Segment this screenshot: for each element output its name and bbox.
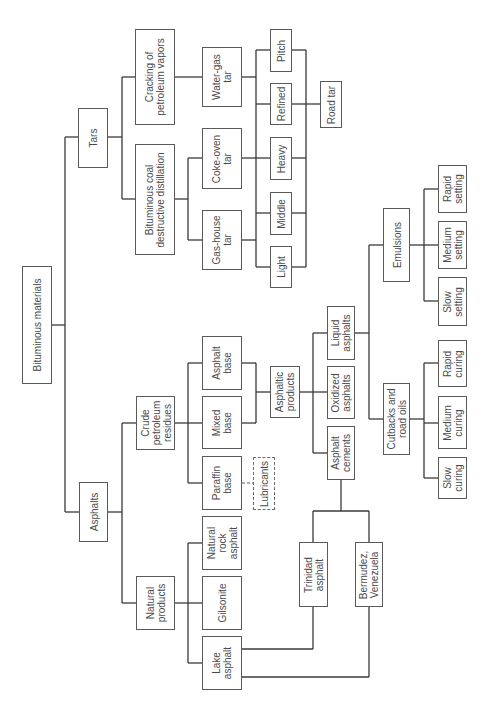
- node-gas-house-tar: Gas-house tar: [202, 210, 242, 270]
- node-asphalt-cements: Asphalt cements: [327, 426, 355, 480]
- node-cutbacks-road-oils: Cutbacks and road oils: [383, 383, 410, 455]
- node-crude-petroleum-residues: Crude petroleum residues: [136, 396, 175, 450]
- node-rapid-setting: Rapid setting: [438, 165, 467, 213]
- node-mixed-base: Mixed base: [202, 396, 242, 449]
- node-cracking-petroleum-vapors: Cracking of petroleum vapors: [135, 29, 175, 125]
- node-tars: Tars: [78, 108, 108, 168]
- node-asphaltic-products: Asphaltic products: [270, 366, 300, 418]
- node-rapid-curing: Rapid curing: [438, 340, 467, 387]
- node-refined: Refined: [270, 83, 292, 125]
- node-bermudez-venezuela: Bermudez, Venezuela: [355, 542, 383, 607]
- node-natural-rock-asphalt: Natural rock asphalt: [202, 516, 242, 570]
- node-gilsonite: Gilsonite: [202, 576, 242, 630]
- bituminous-materials-diagram: Bituminous materials Tars Asphalts Crack…: [0, 0, 482, 716]
- node-trinidad-asphalt: Trinidad asphalt: [299, 542, 328, 607]
- node-emulsions: Emulsions: [383, 208, 410, 282]
- node-asphalts: Asphalts: [79, 482, 108, 542]
- node-oxidized-asphalts: Oxidized asphalts: [327, 366, 355, 419]
- node-lake-asphalt: Lake asphalt: [202, 636, 242, 690]
- node-pitch: Pitch: [270, 29, 292, 72]
- node-middle: Middle: [270, 192, 292, 235]
- node-heavy: Heavy: [270, 137, 292, 180]
- node-water-gas-tar: Water-gas tar: [202, 47, 242, 107]
- node-bituminous-materials: Bituminous materials: [22, 266, 52, 384]
- node-medium-setting: Medium setting: [438, 221, 467, 269]
- node-slow-setting: Slow setting: [438, 277, 467, 326]
- node-natural-products: Natural products: [136, 576, 175, 630]
- node-road-tar: Road tar: [320, 81, 342, 128]
- node-asphalt-base: Asphalt base: [202, 336, 242, 390]
- node-liquid-asphalts: Liquid asphalts: [327, 306, 355, 360]
- node-light: Light: [270, 246, 292, 288]
- node-coke-oven-tar: Coke-oven tar: [202, 128, 242, 189]
- node-bituminous-coal-distillation: Bituminous coal destructive distillation: [135, 144, 175, 255]
- node-medium-curing: Medium curing: [438, 396, 467, 449]
- node-paraffin-base: Paraffin base: [202, 456, 242, 510]
- node-lubricants: Lubricants: [253, 457, 275, 510]
- node-slow-curing: Slow curing: [438, 457, 467, 499]
